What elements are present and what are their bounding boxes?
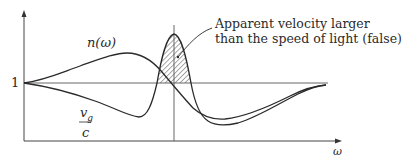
x-axis-label: ω bbox=[333, 146, 342, 157]
group-velocity-label-numerator: vg bbox=[80, 106, 93, 123]
annotation-text-line-1: Apparent velocity larger bbox=[215, 18, 370, 31]
x-axis-arrow-icon bbox=[335, 139, 342, 144]
annotation-pointer-dot bbox=[177, 56, 179, 58]
y-axis-arrow-icon bbox=[22, 10, 27, 17]
annotation-text-line-2: than the speed of light (false) bbox=[215, 33, 402, 46]
unity-tick-label: 1 bbox=[11, 76, 19, 89]
group-velocity-label-denominator: c bbox=[82, 126, 89, 139]
refractive-index-label: n(ω) bbox=[87, 36, 116, 49]
group-velocity-subscript: g bbox=[87, 113, 93, 123]
